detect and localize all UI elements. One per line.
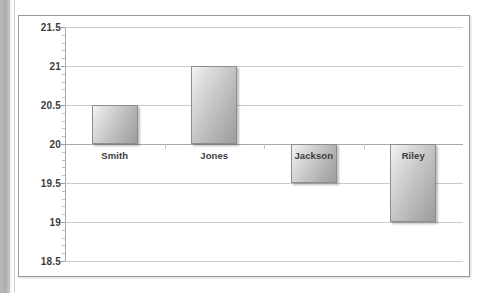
value-axis-minor-tick <box>62 82 65 83</box>
gridline <box>65 261 463 262</box>
value-axis-label: 20 <box>49 139 61 150</box>
value-axis-minor-tick <box>62 50 65 51</box>
value-axis-label: 21 <box>49 61 61 72</box>
value-axis-minor-tick <box>62 113 65 114</box>
gridline <box>65 222 463 223</box>
value-axis-minor-tick <box>62 191 65 192</box>
value-axis-label: 18.5 <box>41 256 61 267</box>
value-axis-minor-tick <box>62 238 65 239</box>
value-axis-minor-tick <box>62 230 65 231</box>
value-axis-minor-tick <box>62 89 65 90</box>
bar-jones[interactable] <box>191 66 237 144</box>
value-axis-label: 19 <box>49 217 61 228</box>
value-axis-minor-tick <box>62 128 65 129</box>
bar-smith[interactable] <box>92 105 138 144</box>
gridline <box>65 27 463 28</box>
category-label-jones: Jones <box>200 150 228 161</box>
value-axis-minor-tick <box>62 167 65 168</box>
value-axis-label: 20.5 <box>41 100 61 111</box>
value-axis-labels: 21.52120.52019.51918.5 <box>19 27 61 261</box>
value-axis-label: 19.5 <box>41 178 61 189</box>
value-axis-minor-tick <box>62 35 65 36</box>
value-axis-minor-tick <box>62 43 65 44</box>
value-axis-minor-tick <box>62 121 65 122</box>
value-axis-minor-tick <box>62 74 65 75</box>
category-axis-tick <box>364 144 365 149</box>
value-axis-minor-tick <box>62 152 65 153</box>
plot-area[interactable]: SmithJonesJacksonRiley <box>65 27 463 261</box>
page-margin-rule <box>14 0 15 293</box>
category-label-smith: Smith <box>101 150 128 161</box>
value-axis-minor-tick <box>62 245 65 246</box>
value-axis-minor-tick <box>62 136 65 137</box>
chart-object-frame[interactable]: 21.52120.52019.51918.5 SmithJonesJackson… <box>18 15 470 277</box>
category-axis-tick <box>264 144 265 149</box>
category-axis-tick <box>165 144 166 149</box>
value-axis-minor-tick <box>62 160 65 161</box>
value-axis-minor-tick <box>62 175 65 176</box>
value-axis-minor-tick <box>62 214 65 215</box>
value-axis-minor-tick <box>62 206 65 207</box>
value-axis-minor-tick <box>62 58 65 59</box>
page-gutter-strip <box>0 0 10 293</box>
value-axis-label: 21.5 <box>41 22 61 33</box>
value-axis-minor-tick <box>62 97 65 98</box>
category-label-riley: Riley <box>402 150 425 161</box>
value-axis-minor-tick <box>62 199 65 200</box>
category-label-jackson: Jackson <box>294 150 333 161</box>
value-axis-minor-tick <box>62 253 65 254</box>
gridline <box>65 66 463 67</box>
